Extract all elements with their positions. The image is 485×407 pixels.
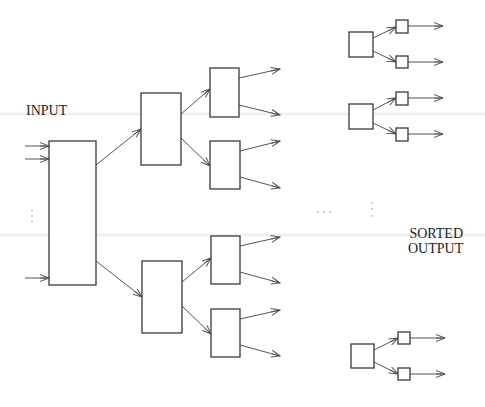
arrow-icon xyxy=(182,258,211,282)
arrow-icon xyxy=(240,345,280,356)
ellipsis-dot xyxy=(371,215,373,217)
node-out-3a xyxy=(398,332,410,344)
arrow-icon xyxy=(239,105,280,115)
node-mid-bottom xyxy=(142,261,182,333)
arrow-icon xyxy=(181,138,210,166)
node-out-2a xyxy=(396,92,408,105)
arrow-icon xyxy=(373,27,396,38)
node-leaf-3 xyxy=(211,236,240,284)
node-root xyxy=(49,141,96,285)
ellipsis-dot xyxy=(317,211,319,213)
arrow-icon xyxy=(373,98,396,110)
arrow-icon xyxy=(374,362,398,374)
arrow-icon xyxy=(374,338,398,350)
node-leaf-2 xyxy=(210,141,240,189)
node-out-group-3 xyxy=(351,344,374,368)
arrow-icon xyxy=(240,237,280,246)
node-mid-top xyxy=(141,93,181,165)
input-label: INPUT xyxy=(26,104,67,118)
arrow-icon xyxy=(239,69,280,78)
arrow-icon xyxy=(96,129,141,165)
node-leaf-1 xyxy=(210,68,239,117)
arrow-icon xyxy=(96,261,142,297)
node-out-1a xyxy=(396,20,408,33)
ellipsis-dot xyxy=(371,208,373,210)
arrow-icon xyxy=(240,310,280,319)
arrow-icon xyxy=(182,306,211,334)
node-leaf-4 xyxy=(211,309,240,357)
sorted-output-label-line2: OUTPUT xyxy=(408,242,463,256)
node-out-group-1 xyxy=(349,32,373,57)
arrow-icon xyxy=(240,141,280,151)
ellipsis-dot xyxy=(329,211,331,213)
ellipsis-dot xyxy=(31,209,33,211)
arrow-icon xyxy=(240,272,280,283)
arrow-icon xyxy=(373,123,396,134)
node-out-group-2 xyxy=(349,104,373,129)
sorted-output-label-line1: SORTED xyxy=(408,227,463,241)
ellipsis-dot xyxy=(323,211,325,213)
node-out-3b xyxy=(398,368,410,380)
sorting-tree-diagram xyxy=(0,0,485,407)
ellipsis-dot xyxy=(371,202,373,204)
arrow-icon xyxy=(373,51,396,62)
ellipsis-dot xyxy=(31,215,33,217)
arrow-icon xyxy=(240,177,280,188)
arrow-icon xyxy=(181,89,210,114)
ellipsis-dot xyxy=(31,221,33,223)
node-out-2b xyxy=(396,128,408,141)
sorter-nodes xyxy=(49,20,410,380)
node-out-1b xyxy=(396,56,408,68)
